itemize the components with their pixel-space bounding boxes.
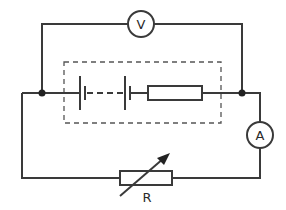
bottom-wire-right (172, 148, 260, 178)
ammeter: A (247, 122, 273, 148)
circuit-diagram: V A R (0, 0, 286, 210)
cell-2 (125, 76, 130, 110)
voltmeter-left-wire (42, 24, 128, 93)
voltmeter-label: V (137, 17, 146, 32)
internal-resistor (148, 86, 202, 100)
junction-left (39, 90, 46, 97)
voltmeter: V (128, 11, 154, 37)
main-wire-right (202, 93, 260, 122)
variable-resistor-label: R (142, 190, 151, 205)
cell-1 (80, 76, 85, 110)
bottom-wire-left (22, 93, 120, 178)
ammeter-label: A (256, 128, 265, 143)
junction-right (239, 90, 246, 97)
voltmeter-right-wire (154, 24, 242, 93)
variable-resistor: R (120, 153, 172, 205)
